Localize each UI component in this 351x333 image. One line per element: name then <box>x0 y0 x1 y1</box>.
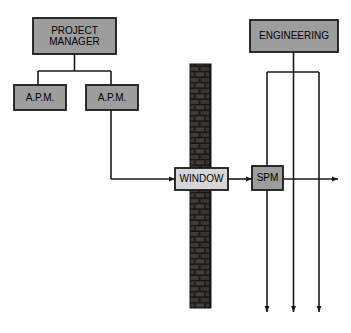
diagram-vector-layer <box>0 0 351 333</box>
box-spm[interactable] <box>252 166 283 190</box>
apm-to-window-connector <box>111 110 175 179</box>
box-engineering[interactable] <box>250 20 338 52</box>
box-apm-left[interactable] <box>14 85 66 110</box>
box-apm-right[interactable] <box>86 85 138 110</box>
org-chart-connectors <box>38 54 111 85</box>
box-window[interactable] <box>175 168 228 190</box>
box-project-manager[interactable] <box>33 18 116 54</box>
diagram-canvas: PROJECT MANAGER A.P.M. A.P.M. WINDOW SPM… <box>0 0 351 333</box>
diagram-boxes <box>14 18 338 190</box>
